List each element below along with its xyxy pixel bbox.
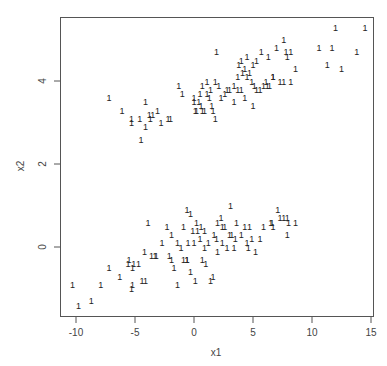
data-point: 1	[178, 243, 183, 253]
data-point: 1	[333, 23, 338, 33]
data-point: 1	[160, 238, 165, 248]
data-point: 1	[288, 77, 293, 87]
data-point: 1	[129, 284, 134, 294]
scatter-plot: 1111111111111111111111111111111111111111…	[0, 0, 387, 366]
data-point: 1	[180, 89, 185, 99]
data-point: 1	[253, 247, 258, 257]
data-point: 1	[228, 201, 233, 211]
y-tick-label: 4	[37, 78, 48, 84]
x-axis-label: x1	[211, 347, 222, 358]
data-point: 1	[288, 47, 293, 57]
data-point: 1	[76, 301, 81, 311]
data-point: 1	[89, 296, 94, 306]
data-point: 1	[202, 226, 207, 236]
data-point: 1	[143, 97, 148, 107]
data-point: 1	[293, 218, 298, 228]
data-point: 1	[154, 251, 159, 261]
data-point: 1	[266, 52, 271, 62]
x-tick-label: 15	[365, 327, 377, 338]
data-point: 1	[325, 60, 330, 70]
data-point: 1	[117, 272, 122, 282]
data-point: 1	[142, 247, 147, 257]
data-point: 1	[188, 209, 193, 219]
data-point: 1	[233, 234, 238, 244]
data-point: 1	[235, 72, 240, 82]
data-point: 1	[216, 81, 221, 91]
data-point: 1	[212, 230, 217, 240]
data-point: 1	[119, 106, 124, 116]
y-axis: 024	[37, 78, 60, 250]
data-point: 1	[261, 222, 266, 232]
data-point: 1	[137, 114, 142, 124]
data-point: 1	[168, 114, 173, 124]
data-point: 1	[249, 234, 254, 244]
x-tick-label: 5	[250, 327, 256, 338]
data-point: 1	[281, 77, 286, 87]
data-point: 1	[202, 106, 207, 116]
data-point: 1	[274, 43, 279, 53]
data-point: 1	[181, 222, 186, 232]
data-point: 1	[247, 222, 252, 232]
data-point: 1	[317, 43, 322, 53]
data-point: 1	[285, 230, 290, 240]
data-point: 1	[213, 114, 218, 124]
data-point: 1	[138, 135, 143, 145]
data-point: 1	[293, 64, 298, 74]
data-point: 1	[171, 263, 176, 273]
data-point: 1	[106, 263, 111, 273]
data-point: 1	[250, 101, 255, 111]
data-point: 1	[363, 23, 368, 33]
data-point: 1	[354, 47, 359, 57]
data-point: 1	[106, 93, 111, 103]
data-point: 1	[191, 238, 196, 248]
data-point: 1	[281, 35, 286, 45]
data-point: 1	[70, 280, 75, 290]
data-point: 1	[158, 118, 163, 128]
data-point: 1	[129, 118, 134, 128]
data-point: 1	[220, 222, 225, 232]
data-point: 1	[232, 97, 237, 107]
data-point: 1	[145, 218, 150, 228]
y-axis-label: x2	[15, 160, 26, 171]
data-point: 1	[184, 255, 189, 265]
x-axis: -10-5051015	[69, 317, 377, 338]
x-tick-label: -10	[69, 327, 84, 338]
y-tick-label: 0	[37, 244, 48, 250]
data-point: 1	[239, 56, 244, 66]
x-tick-label: 0	[191, 327, 197, 338]
data-point: 1	[258, 234, 263, 244]
data-point: 1	[206, 238, 211, 248]
data-point: 1	[175, 280, 180, 290]
data-point: 1	[98, 280, 103, 290]
data-point: 1	[224, 243, 229, 253]
data-point: 1	[155, 106, 160, 116]
data-points: 1111111111111111111111111111111111111111…	[70, 23, 368, 311]
data-point: 1	[193, 276, 198, 286]
data-point: 1	[339, 64, 344, 74]
data-point: 1	[271, 72, 276, 82]
data-point: 1	[200, 255, 205, 265]
y-tick-label: 2	[37, 161, 48, 167]
data-point: 1	[210, 272, 215, 282]
data-point: 1	[169, 230, 174, 240]
data-point: 1	[136, 259, 141, 269]
data-point: 1	[330, 43, 335, 53]
data-point: 1	[286, 218, 291, 228]
data-point: 1	[245, 52, 250, 62]
data-point: 1	[214, 47, 219, 57]
x-tick-label: 10	[306, 327, 318, 338]
data-point: 1	[234, 218, 239, 228]
data-point: 1	[242, 93, 247, 103]
data-point: 1	[259, 47, 264, 57]
x-tick-label: -5	[131, 327, 140, 338]
data-point: 1	[268, 218, 273, 228]
data-point: 1	[186, 238, 191, 248]
data-point: 1	[143, 276, 148, 286]
